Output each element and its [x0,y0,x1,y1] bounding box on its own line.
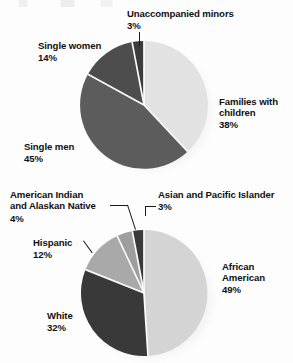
pie-2-svg [76,229,216,363]
value-white: 32% [47,322,66,333]
value-single-women: 14% [38,52,57,63]
label-single-men: Single men [24,141,74,152]
pie-1-svg [78,38,214,174]
label-unaccompanied-minors: Unaccompanied minors [127,8,287,19]
label-single-women: Single women [38,40,101,51]
label-white: White [47,310,73,321]
leader-unaccompanied-minors [139,32,140,46]
label-african-american: African American [222,261,265,284]
pie-chart-household-composition: Unaccompanied minors 3% Single women 14%… [0,0,293,181]
leader-asian-pacific-islander [145,206,156,207]
value-african-american: 49% [222,284,241,295]
slice-african-american[interactable] [144,230,207,356]
label-unaccompanied-minors-text: Unaccompanied minors [127,8,234,19]
value-american-indian-alaskan-native: 4% [10,213,24,224]
label-asian-pacific-islander: Asian and Pacific Islander [158,189,274,200]
leader-american-indian-horizontal [110,205,128,206]
leader-asian-pacific-islander-vertical [145,206,146,216]
label-hispanic: Hispanic [33,237,72,248]
value-single-men: 45% [24,153,43,164]
leader-american-indian-diagonal [127,205,136,230]
pie-1-graphic [78,38,214,174]
value-families-with-children: 38% [219,119,238,130]
pie-chart-race-ethnicity: Asian and Pacific Islander 3% American I… [0,181,293,363]
label-families-with-children: Families with children [219,96,291,119]
value-asian-pacific-islander: 3% [158,201,172,212]
label-american-indian-alaskan-native: American Indian and Alaskan Native [10,189,96,212]
pie-2-graphic [76,229,216,363]
value-hispanic: 12% [33,249,52,260]
value-unaccompanied-minors: 3% [127,20,141,31]
infographic-page: Unaccompanied minors 3% Single women 14%… [0,0,293,363]
